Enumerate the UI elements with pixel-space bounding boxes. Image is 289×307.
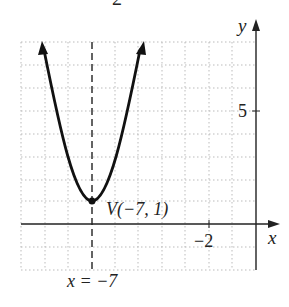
y-axis-label: y [238,16,246,35]
y-tick-5-label: 5 [238,102,247,120]
y-axis [252,19,260,270]
vertex-point [89,198,96,205]
x-axis-label: x [268,228,276,247]
chart-canvas [0,0,289,307]
vertex-label: V(−7, 1) [106,200,168,218]
left-arrow-icon [38,41,48,55]
vertex-label-text: V(−7, 1) [106,199,168,219]
x-tick-neg2-label: −2 [194,232,213,250]
axis-of-symmetry-label: x = −7 [67,272,117,290]
grid [21,42,256,270]
x-axis [21,220,280,228]
